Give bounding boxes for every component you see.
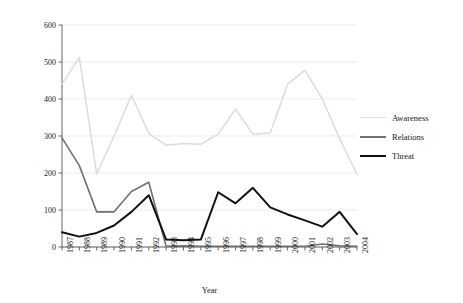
x-tick-label: 1995 — [204, 237, 213, 253]
x-tick-label: 1992 — [152, 237, 161, 253]
x-tick-label: 1990 — [118, 237, 127, 253]
legend-swatch-threat — [360, 155, 386, 157]
x-tick-label: 1994 — [187, 237, 196, 253]
x-tick-label: 1987 — [66, 237, 75, 253]
x-tick-label: 2004 — [361, 237, 370, 253]
y-tick-label: 500 — [26, 58, 56, 67]
line-chart: Number of mentions 6005004003002001000 1… — [0, 0, 463, 303]
legend-swatch-awareness — [360, 117, 386, 118]
legend-item-threat: Threat — [360, 146, 460, 165]
x-axis-title: Year — [62, 285, 357, 295]
x-tick-label: 1997 — [239, 237, 248, 253]
x-tick-label: 2002 — [326, 237, 335, 253]
x-tick-label: 1993 — [170, 237, 179, 253]
y-tick-label: 0 — [26, 243, 56, 252]
x-tick-label: 1999 — [274, 237, 283, 253]
y-tick-marks — [59, 25, 63, 247]
y-tick-label: 300 — [26, 132, 56, 141]
y-tick-label: 200 — [26, 169, 56, 178]
x-tick-label: 1989 — [100, 237, 109, 253]
x-tick-label: 1998 — [256, 237, 265, 253]
y-tick-label: 600 — [26, 21, 56, 30]
x-tick-label: 2003 — [343, 237, 352, 253]
chart-legend: Awareness Relations Threat — [360, 108, 460, 165]
legend-label-threat: Threat — [392, 151, 414, 161]
x-tick-label: 1991 — [135, 237, 144, 253]
legend-item-awareness: Awareness — [360, 108, 460, 127]
legend-swatch-relations — [360, 136, 386, 138]
legend-label-awareness: Awareness — [392, 113, 429, 123]
x-tick-label: 1996 — [222, 237, 231, 253]
series-lines — [62, 58, 357, 247]
y-tick-label: 400 — [26, 95, 56, 104]
legend-item-relations: Relations — [360, 127, 460, 146]
legend-label-relations: Relations — [392, 132, 424, 142]
x-tick-label: 1988 — [83, 237, 92, 253]
y-tick-label: 100 — [26, 206, 56, 215]
x-tick-label: 2000 — [291, 237, 300, 253]
x-tick-label: 2001 — [308, 237, 317, 253]
